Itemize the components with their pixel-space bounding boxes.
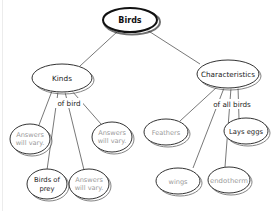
birds-of-prey-line1: Birds of — [34, 176, 60, 184]
node-endotherm: endotherm — [208, 167, 252, 195]
node-lays-eggs: Lays eggs — [224, 118, 270, 146]
node-characteristics: Characteristics — [197, 60, 261, 90]
answer-2-line1: Answers — [98, 129, 126, 137]
answer-1-line2: will vary. — [16, 139, 45, 147]
concept-map: Birds Kinds Characteristics of bird of a… — [0, 0, 271, 211]
node-birds-label: Birds — [118, 16, 142, 25]
node-kinds-answer-2: Answers will vary. — [92, 122, 134, 154]
answer-3-line2: will vary. — [75, 184, 104, 192]
node-kinds-label: Kinds — [52, 74, 72, 83]
node-kinds: Kinds — [32, 64, 94, 94]
link-label-of-all-birds: of all birds — [213, 100, 251, 109]
lays-eggs-label: Lays eggs — [229, 128, 263, 136]
answer-2-line2: will vary. — [98, 137, 127, 145]
connector-birds-characteristics — [147, 30, 200, 64]
answer-1-line1: Answers — [16, 131, 44, 139]
node-kinds-answer-3: Answers will vary. — [69, 169, 111, 201]
feathers-label: Feathers — [152, 129, 181, 137]
link-label-of-bird: of bird — [57, 99, 80, 108]
endotherm-label: endotherm — [210, 177, 248, 185]
node-wings: wings — [156, 168, 202, 196]
node-feathers: Feathers — [144, 119, 190, 147]
birds-of-prey-line2: prey — [39, 185, 54, 193]
node-kinds-answer-1: Answers will vary. — [10, 124, 52, 156]
node-birds: Birds — [103, 8, 160, 35]
connector-birds-kinds — [80, 31, 118, 66]
node-characteristics-label: Characteristics — [201, 70, 255, 79]
node-birds-of-prey: Birds of prey — [27, 169, 69, 201]
answer-3-line1: Answers — [75, 176, 103, 184]
wings-label: wings — [168, 178, 188, 186]
